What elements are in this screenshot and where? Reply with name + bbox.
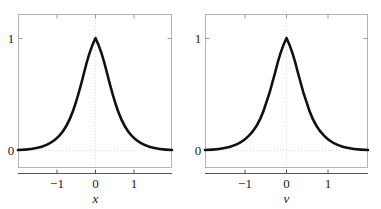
left-panel-xlabel: x [92,191,99,206]
left-panel-right-ticks [168,39,172,151]
left-panel-xtick-zero: 0 [92,176,99,191]
left-panel-left-ticks [19,39,23,151]
figure: 1 0 −1 0 1 x [0,0,381,209]
left-panel-x-axis-ticks [57,170,134,174]
left-panel-xtick-minus-one: −1 [50,176,64,191]
right-panel: 1 0 −1 0 1 ν [190,0,380,209]
right-panel-xlabel: ν [284,191,290,206]
right-panel-curve [205,38,368,150]
right-panel-xtick-one: 1 [325,176,332,191]
left-panel-xtick-one: 1 [131,176,138,191]
right-panel-left-ticks [206,39,210,151]
right-panel-ytick-zero: 0 [195,143,202,158]
right-panel-xtick-minus-one: −1 [238,176,252,191]
right-panel-right-ticks [364,39,368,151]
right-panel-ytick-one: 1 [195,31,202,46]
right-panel-x-axis-ticks [245,170,328,174]
right-panel-xtick-zero: 0 [283,176,290,191]
left-panel-top-ticks [57,15,134,19]
left-panel: 1 0 −1 0 1 x [0,0,190,209]
left-panel-ytick-one: 1 [8,31,15,46]
left-panel-curve [18,38,172,150]
left-panel-ytick-zero: 0 [8,143,15,158]
right-panel-top-ticks [245,15,328,19]
